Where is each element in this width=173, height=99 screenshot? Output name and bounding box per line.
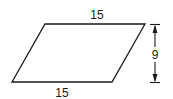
parallelogram-shape: [12, 24, 145, 82]
top-side-label: 15: [90, 8, 104, 22]
bottom-side-label: 15: [55, 86, 69, 99]
height-label: 9: [152, 48, 159, 62]
parallelogram-diagram: 15 15 9: [0, 0, 173, 99]
arrow-down-icon: [153, 74, 158, 82]
arrow-up-icon: [153, 25, 158, 33]
